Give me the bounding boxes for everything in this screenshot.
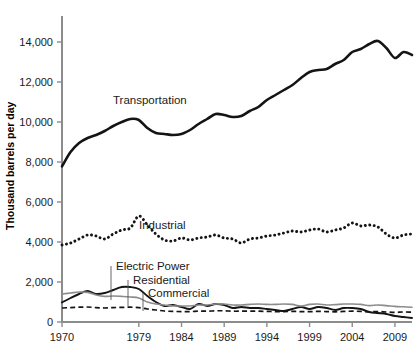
line-chart: 02,0004,0006,0008,00010,00012,00014,000 …: [0, 0, 417, 361]
x-axis-tick-label: 2009: [383, 331, 407, 343]
series-line-electric-power: [62, 287, 412, 318]
y-axis-tick-label: 10,000: [19, 116, 53, 128]
x-axis-tick-label: 1999: [297, 331, 321, 343]
series-line-residential: [62, 292, 412, 307]
y-axis-tick-label: 4,000: [25, 236, 53, 248]
chart-container: 02,0004,0006,0008,00010,00012,00014,000 …: [0, 0, 417, 361]
x-axis-tick-label: 2004: [340, 331, 364, 343]
y-axis-tick-label: 12,000: [19, 76, 53, 88]
data-series-group: [62, 41, 412, 318]
series-label-industrial: Industrial: [139, 219, 186, 231]
y-axis-tick-label: 2,000: [25, 276, 53, 288]
x-axis-tick-label: 1984: [169, 331, 193, 343]
series-label-electric-power: Electric Power: [116, 260, 190, 272]
x-axis-tick-label: 1979: [127, 331, 151, 343]
series-label-transportation: Transportation: [113, 94, 187, 106]
y-axis-tick-label: 8,000: [25, 156, 53, 168]
y-axis-tick-label: 0: [47, 316, 53, 328]
x-axis-tick-group: 19701979198419891994199920042009: [50, 322, 407, 343]
x-axis-tick-label: 1970: [50, 331, 74, 343]
y-axis-tick-label: 6,000: [25, 196, 53, 208]
y-axis-tick-group: 02,0004,0006,0008,00010,00012,00014,000: [19, 36, 62, 328]
y-axis-title: Thousand barrels per day: [4, 101, 16, 230]
series-line-industrial: [62, 216, 412, 245]
x-axis-tick-label: 1994: [255, 331, 279, 343]
series-label-commercial: Commercial: [148, 287, 209, 299]
x-axis-tick-label: 1989: [212, 331, 236, 343]
series-label-residential: Residential: [133, 274, 190, 286]
y-axis-tick-label: 14,000: [19, 36, 53, 48]
